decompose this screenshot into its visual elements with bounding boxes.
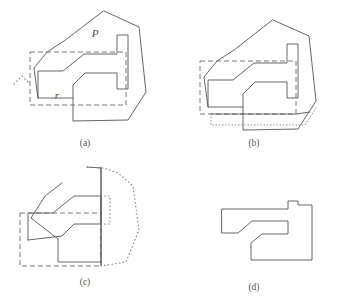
panel-b-notch-path xyxy=(208,44,298,107)
panel-a-rectangle-label: r xyxy=(55,89,60,101)
panel-c-removed-notch-outline xyxy=(101,196,110,224)
panel-a-caption: (a) xyxy=(80,138,91,149)
polygon-clipping-figure: P r (a) (b) (c) (d) xyxy=(0,0,343,307)
panel-a: P r (a) xyxy=(14,11,146,149)
panel-a-query-rectangle xyxy=(30,52,126,105)
panel-c: (c) xyxy=(20,167,139,288)
panel-a-notch-path xyxy=(38,35,128,98)
panel-c-removed-region-outline xyxy=(87,167,139,266)
panel-b: (b) xyxy=(200,20,316,149)
panel-d-result-outline xyxy=(222,201,312,260)
panel-c-caption: (c) xyxy=(80,277,91,288)
panel-b-query-rectangle xyxy=(200,61,296,114)
panel-c-notch-path xyxy=(28,196,101,240)
panel-d: (d) xyxy=(222,201,312,293)
panel-d-caption: (d) xyxy=(248,282,259,293)
panel-a-corner-dots-icon xyxy=(14,76,30,84)
panel-a-polygon-label: P xyxy=(91,27,99,39)
panel-b-clip-bottom-edge xyxy=(211,112,310,114)
panel-b-caption: (b) xyxy=(248,138,259,149)
panel-c-polygon-outline xyxy=(31,167,101,262)
panel-b-removed-region-outline xyxy=(211,108,316,125)
panel-a-polygon-outline xyxy=(34,11,146,121)
